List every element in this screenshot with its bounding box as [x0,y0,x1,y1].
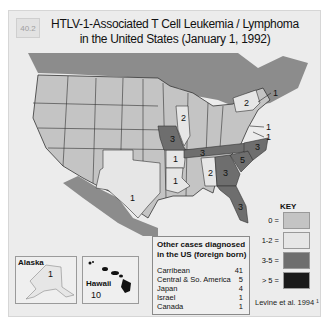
alaska-value: 1 [48,269,53,279]
key-row-gt-five: > 5 = [255,272,310,289]
key-row-zero: 0 = [255,212,310,229]
other-cases-header: Other cases diagnosed in the US (foreign… [157,240,249,260]
key-row-one-two: 1-2 = [255,232,310,249]
svg-text:1: 1 [266,122,271,132]
key-title: KEY [280,202,296,211]
citation: Levine et al. 1994 ¹ [255,298,319,307]
state-florida [217,186,248,223]
svg-text:1: 1 [173,154,178,164]
alaska-inset: Alaska 1 [15,256,77,304]
other-cases-row: Carribean41 [157,266,243,275]
svg-text:2: 2 [244,98,249,108]
other-cases-row: Canada1 [157,302,243,311]
key-swatch [283,252,310,269]
map-title: HTLV-1-Associated T Cell Leukemia / Lymp… [40,17,310,47]
title-line-2: in the United States (January 1, 1992) [40,32,310,47]
key-swatch [283,232,310,249]
key-swatch [283,212,310,229]
title-line-1: HTLV-1-Associated T Cell Leukemia / Lymp… [40,17,310,32]
svg-text:2: 2 [208,168,213,178]
svg-text:1: 1 [130,193,135,203]
alaska-shape [16,257,76,303]
svg-text:3: 3 [255,142,260,152]
us-map: 1 1 1 3 2 3 2 3 5 3 3 2 1 1 1 [8,48,319,238]
hawaii-inset: Hawaii 10 [82,256,139,304]
svg-text:3: 3 [200,148,205,158]
key-swatch [283,272,310,289]
other-cases-row: Central & So. America5 [157,275,243,284]
other-cases-row: Israel1 [157,293,243,302]
svg-text:1: 1 [173,176,178,186]
svg-text:3: 3 [170,134,175,144]
svg-text:2: 2 [181,113,186,123]
svg-text:3: 3 [238,202,243,212]
figure-number: 40.2 [16,18,40,38]
svg-text:5: 5 [240,155,245,165]
svg-text:1: 1 [266,132,271,142]
hawaii-value: 10 [91,290,101,300]
key-row-three-five: 3-5 = [255,252,310,269]
hawaii-label: Hawaii [86,279,111,288]
other-cases-box: Other cases diagnosed in the US (foreign… [152,236,250,315]
other-cases-row: Japan4 [157,284,243,293]
svg-text:1: 1 [273,88,278,98]
svg-text:3: 3 [223,168,228,178]
